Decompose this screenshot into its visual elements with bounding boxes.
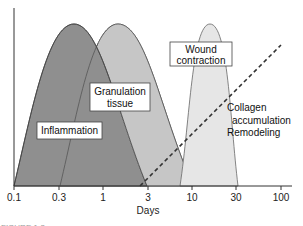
granulation-label-line2: tissue: [107, 98, 134, 109]
x-ticks: [14, 186, 281, 190]
tick-label: 100: [273, 192, 290, 203]
wound-healing-chart: 0.1 0.3 1 3 10 30 100 Days Inflammation …: [0, 0, 303, 226]
collagen-label-line2: accumulation: [232, 115, 291, 126]
tick-label: 10: [186, 192, 198, 203]
inflammation-label: Inflammation: [41, 125, 98, 136]
tick-label: 0.3: [52, 192, 66, 203]
tick-label: 0.1: [7, 192, 21, 203]
granulation-label-line1: Granulation: [94, 86, 146, 97]
x-tick-labels: 0.1 0.3 1 3 10 30 100: [7, 192, 290, 203]
collagen-label-line1: Collagen: [227, 102, 266, 113]
tick-label: 1: [100, 192, 106, 203]
tick-label: 30: [230, 192, 242, 203]
tick-label: 3: [145, 192, 151, 203]
wound-contraction-label-line2: contraction: [177, 55, 226, 66]
wound-contraction-label-line1: Wound: [185, 44, 217, 55]
collagen-label-line3: Remodeling: [227, 127, 280, 138]
figure-caption: FIGURE 1-3: [1, 223, 46, 226]
x-axis-title: Days: [137, 205, 160, 216]
